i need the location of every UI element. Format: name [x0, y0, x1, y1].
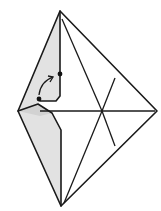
- diagonal-crease-2b: [102, 111, 115, 146]
- diagonal-crease-2: [102, 78, 115, 111]
- origami-diagram: [0, 0, 161, 211]
- target-point: [58, 72, 63, 77]
- start-point: [37, 97, 42, 102]
- diagonal-crease-1b: [64, 111, 102, 203]
